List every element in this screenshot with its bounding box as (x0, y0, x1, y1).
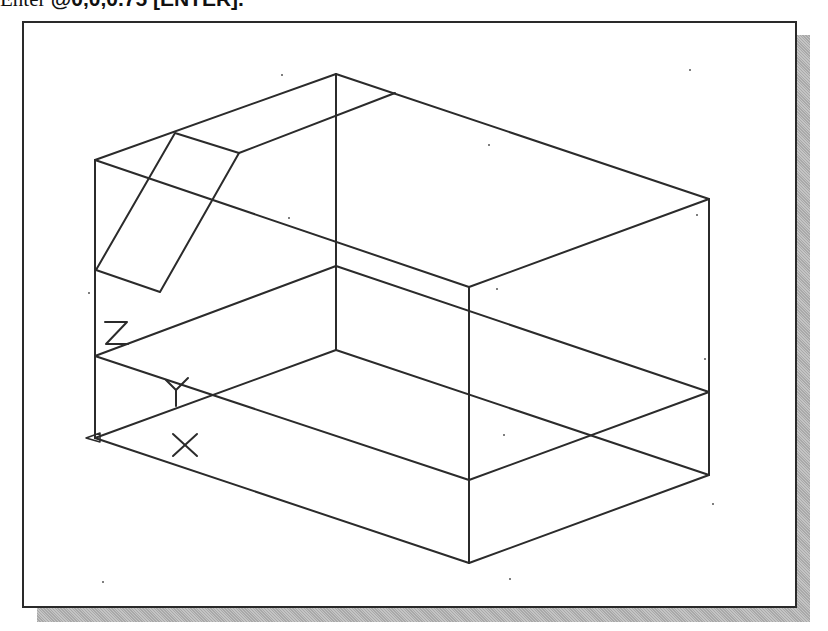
scan-specks (88, 69, 714, 583)
inclined-rectangle (96, 93, 395, 292)
bottom-level (95, 350, 709, 563)
wireframe-drawing (0, 0, 828, 631)
vertical-edges (95, 74, 709, 563)
x-axis-label-icon (173, 434, 197, 456)
top-face (95, 74, 709, 287)
z-axis-label-icon (105, 322, 128, 344)
